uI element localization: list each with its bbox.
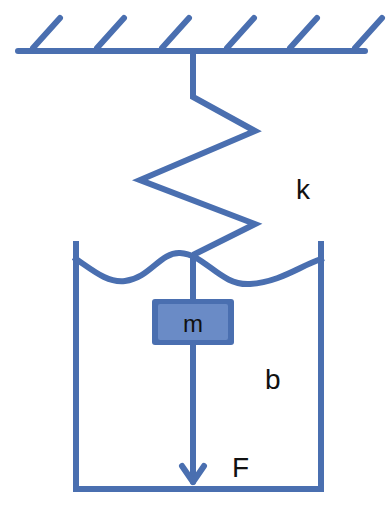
mass-block: m bbox=[152, 299, 234, 345]
force-arrow bbox=[182, 345, 204, 482]
hatch-line bbox=[290, 18, 317, 48]
mass-label: m bbox=[183, 310, 203, 337]
damping-coefficient-label: b bbox=[265, 364, 281, 395]
hatch-line bbox=[97, 18, 124, 48]
hatch-line bbox=[162, 18, 189, 48]
spring-mass-damper-diagram: m k b F bbox=[0, 0, 389, 506]
hatch-line bbox=[227, 18, 254, 48]
ceiling-support bbox=[18, 18, 382, 51]
force-label: F bbox=[232, 452, 249, 483]
spring bbox=[140, 51, 255, 255]
hatch-line bbox=[33, 18, 60, 48]
spring-constant-label: k bbox=[296, 174, 311, 205]
hatch-line bbox=[355, 18, 382, 48]
fluid-surface bbox=[76, 253, 321, 284]
damper-container bbox=[76, 244, 321, 489]
